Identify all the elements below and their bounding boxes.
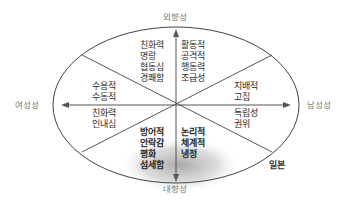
arrow-right-icon (283, 102, 291, 108)
group-bottom-right: 논리적 체계적 냉정 (181, 127, 205, 160)
group-right-lower: 독립성 권위 (234, 108, 258, 130)
group-left-upper: 수용적 수동적 (92, 81, 116, 103)
axis-label-right: 남성성 (307, 100, 331, 111)
group-right-upper: 지배적 고집 (234, 81, 258, 103)
diagram-canvas (0, 0, 350, 202)
group-bottom-left: 방어적 안락감 평화 섬세함 (140, 127, 164, 171)
group-top-right: 활동적 공격적 행동력 조급성 (181, 40, 205, 84)
arrow-up-icon (173, 29, 179, 37)
annotation-japan: 일본 (269, 160, 285, 171)
group-top-left: 친화력 명랑 협동심 경쾌함 (140, 40, 164, 84)
axis-label-left: 여성성 (15, 100, 39, 111)
axis-label-top: 외향성 (163, 12, 187, 23)
arrow-left-icon (61, 102, 69, 108)
axis-label-bottom: 내향성 (163, 184, 187, 195)
group-left-lower: 친화력 인내심 (92, 108, 116, 130)
